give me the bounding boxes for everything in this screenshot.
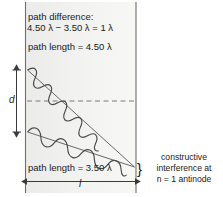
distance-label: l	[79, 178, 81, 189]
upper-path-length-label: path length = 4.50 λ	[28, 41, 112, 52]
path-difference-equation: 4.50 λ − 3.50 λ = 1 λ	[27, 22, 113, 33]
caption-line-2: interference at	[145, 163, 223, 174]
constructive-interference-caption: constructive interference at n = 1 antin…	[145, 152, 223, 186]
path-difference-label: path difference:	[28, 11, 93, 22]
lower-path-length-label: path length = 3.50 λ	[28, 162, 112, 173]
caption-brace: }	[137, 161, 142, 176]
separation-label: d	[9, 94, 15, 105]
caption-line-1: constructive	[145, 152, 223, 163]
caption-line-3: n = 1 antinode	[145, 174, 223, 185]
